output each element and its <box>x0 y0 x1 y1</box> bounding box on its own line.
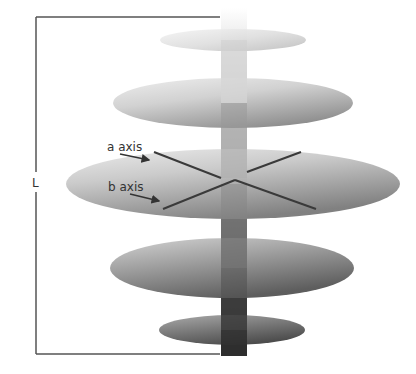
length-label: L <box>32 176 39 190</box>
disc-stack-diagram: L a axis b axis <box>0 0 416 374</box>
b-axis-label: b axis <box>108 180 143 194</box>
rod-segment-1 <box>221 40 247 51</box>
rod-segment-4 <box>221 268 247 298</box>
rod-segment-5 <box>221 330 247 356</box>
rod-segment-2 <box>221 103 247 128</box>
rod-segment-3 <box>221 184 247 219</box>
rod-front-lower <box>221 219 247 268</box>
rod-front-upper <box>221 51 247 103</box>
a-axis-label: a axis <box>107 140 142 154</box>
rod-front-bottom <box>221 298 247 330</box>
rod-front-mid <box>221 128 247 178</box>
